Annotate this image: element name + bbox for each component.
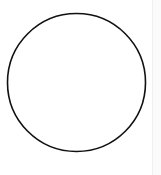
right-edge-divider [152, 0, 161, 175]
circle-diagram [0, 0, 152, 175]
circle-shape [8, 14, 146, 152]
drawing-canvas [0, 0, 152, 175]
